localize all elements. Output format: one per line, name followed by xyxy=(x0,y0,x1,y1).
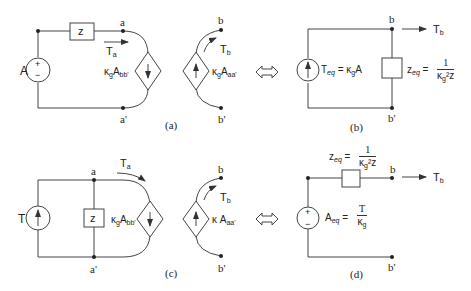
panel-b-impedance-label: zeq = xyxy=(407,65,428,76)
panel-c-caption: (c) xyxy=(165,268,177,279)
panel-b-impedance-fraction: 1κg²z xyxy=(437,58,454,82)
panel-d-source-fraction: Tκg xyxy=(357,204,367,228)
panel-b-impedance-box xyxy=(382,58,402,78)
panel-d-impedance-box xyxy=(342,170,360,187)
panel-d-impedance-label: zeq = xyxy=(329,152,350,163)
panel-a-node-b: b xyxy=(218,15,224,26)
panel-d-flow-tb: Tb xyxy=(433,172,444,184)
panel-a-dep-left-label: κgAbb' xyxy=(104,67,129,78)
panel-c-impedance-label: z xyxy=(90,213,96,224)
panel-a-node-a: a xyxy=(120,17,125,28)
panel-c-node-b-prime: b' xyxy=(218,263,225,274)
panel-d-plus-sign: + xyxy=(305,208,310,217)
panel-a-flow-ta: Ta xyxy=(106,46,117,58)
panel-c-source-label: T xyxy=(18,213,25,225)
panel-a-node-b-prime: b' xyxy=(218,114,225,125)
panel-c-node-b: b xyxy=(218,164,224,175)
panel-a-caption: (a) xyxy=(165,120,177,131)
panel-d-source-label: Aeq = xyxy=(325,213,348,224)
panel-a-plus-sign: + xyxy=(35,60,40,69)
panel-d-minus-sign: − xyxy=(305,220,310,229)
panel-c-node-a-prime: a' xyxy=(90,264,97,275)
panel-c-node-a: a xyxy=(91,166,96,177)
panel-d-impedance-fraction: 1κg²z xyxy=(359,145,376,169)
panel-b-node-b-prime: b' xyxy=(388,113,395,124)
panel-b-node-b: b xyxy=(389,14,395,25)
panel-c-flow-tb: Tb xyxy=(220,192,231,204)
panel-b-source-label: Teq = κgA xyxy=(321,65,362,76)
panel-d-node-b: b xyxy=(390,164,396,175)
circuit-drawing xyxy=(0,0,471,291)
equivalence-arrow-bottom xyxy=(256,213,278,225)
circuit-figure: A + − z a a' b b' Ta Tb κgAbb' κgAaa' (a… xyxy=(0,0,471,291)
panel-c-dep-right-label: κ Aaa' xyxy=(212,215,236,226)
panel-a-minus-sign: − xyxy=(35,71,40,80)
panel-a-node-a-prime: a' xyxy=(120,114,127,125)
panel-a-source-label: A xyxy=(20,65,28,77)
panel-c-dep-left-label: κgAbb' xyxy=(111,215,136,226)
panel-d-caption: (d) xyxy=(350,269,363,280)
panel-a-dep-right-label: κgAaa' xyxy=(212,67,237,78)
equivalence-arrow-top xyxy=(256,66,278,78)
panel-d-node-b-prime: b' xyxy=(388,262,395,273)
panel-a-impedance-label: z xyxy=(78,26,84,37)
panel-a-flow-tb: Tb xyxy=(220,44,231,56)
panel-b-caption: (b) xyxy=(350,122,363,133)
panel-b-flow-tb: Tb xyxy=(433,24,444,36)
panel-c-flow-ta: Ta xyxy=(120,158,131,170)
